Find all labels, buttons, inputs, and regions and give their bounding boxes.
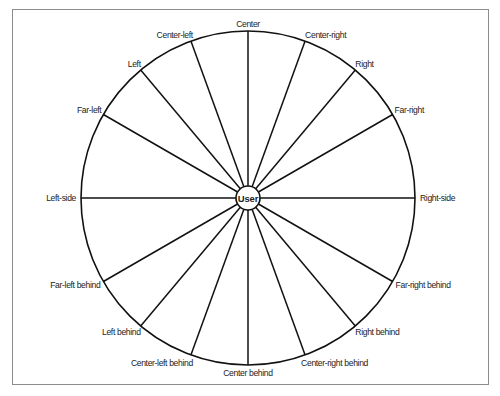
label-center: Center: [236, 19, 260, 29]
label-left: Left: [128, 59, 142, 69]
label-left-side: Left-side: [46, 193, 76, 203]
spoke-far-left-behind: [103, 204, 237, 282]
spoke-right-behind: [256, 207, 356, 326]
label-far-right: Far-right: [395, 105, 425, 115]
label-center-right: Center-right: [305, 30, 347, 40]
spoke-left: [141, 70, 241, 189]
user-location-diagram: User CenterCenter-rightRightFar-rightRig…: [0, 0, 500, 396]
label-right: Right: [355, 59, 374, 69]
label-right-side: Right-side: [420, 193, 456, 203]
label-center-left: Center-left: [157, 30, 194, 40]
label-left-behind: Left behind: [102, 327, 141, 337]
spoke-far-left: [103, 115, 237, 193]
spoke-right: [256, 70, 356, 189]
spoke-far-right: [258, 115, 392, 193]
spoke-left-behind: [141, 207, 241, 326]
spoke-far-right-behind: [258, 204, 392, 282]
spoke-center-left: [191, 41, 244, 187]
label-center-right-behind: Center-right behind: [301, 358, 368, 368]
label-far-right-behind: Far-right behind: [396, 280, 452, 290]
label-far-left: Far-left: [77, 105, 102, 115]
user-label: User: [238, 193, 259, 204]
label-far-left-behind: Far-left behind: [50, 280, 101, 290]
label-center-left-behind: Center-left behind: [131, 358, 194, 368]
spoke-center-right-behind: [252, 209, 305, 355]
spoke-center-left-behind: [191, 209, 244, 355]
label-center-behind: Center behind: [223, 368, 273, 378]
label-right-behind: Right behind: [355, 327, 400, 337]
spoke-center-right: [252, 41, 305, 187]
